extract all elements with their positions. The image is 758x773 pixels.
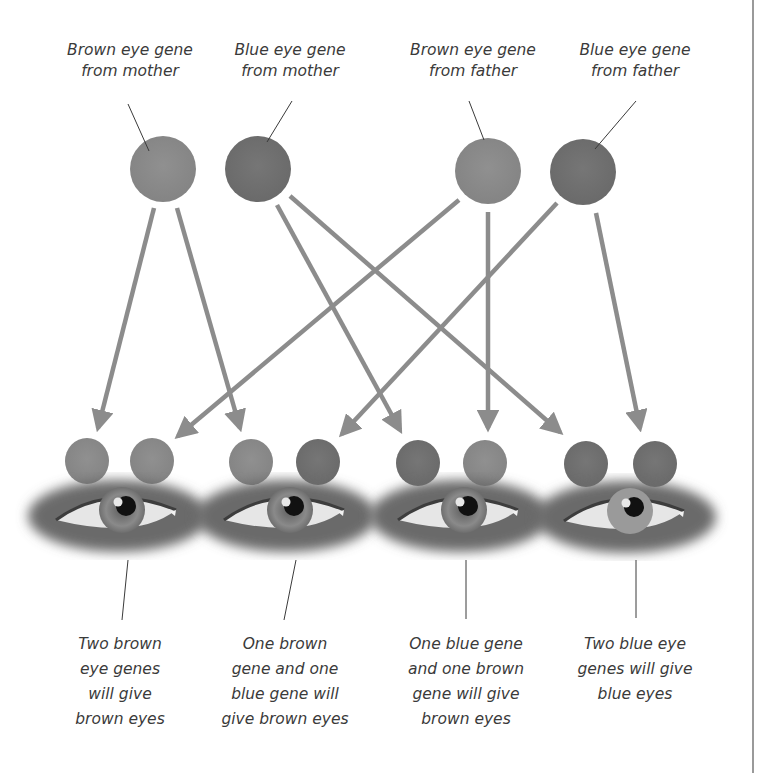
label-brown-gene-father: Brown eye gene from father (393, 40, 553, 82)
gene-circle-brown-mother (130, 136, 196, 202)
offspring-genes (65, 438, 677, 487)
page-border-right (752, 0, 754, 773)
offspring-gene-1b (130, 438, 174, 484)
caption-one-blue-one-brown: One blue gene and one brown gene will gi… (391, 632, 541, 732)
inheritance-arrows (98, 196, 640, 436)
caption-two-blue-genes: Two blue eye genes will give blue eyes (560, 632, 710, 707)
eye-blue-4 (536, 481, 716, 553)
offspring-gene-4b (633, 441, 677, 487)
gene-circle-blue-father (550, 139, 616, 205)
eye-brown-3 (370, 480, 550, 552)
label-brown-gene-mother: Brown eye gene from mother (50, 40, 210, 82)
offspring-gene-4a (564, 441, 608, 487)
gene-circle-brown-father (455, 138, 521, 204)
offspring-gene-3a (396, 440, 440, 486)
arrow-father-blue-to-pair4 (596, 213, 640, 428)
offspring-gene-2a (229, 439, 273, 485)
caption-one-brown-one-blue: One brown gene and one blue gene will gi… (200, 632, 370, 732)
offspring-gene-2b (296, 439, 340, 485)
arrow-mother-brown-to-pair1 (98, 208, 154, 428)
offspring-gene-1a (65, 438, 109, 484)
arrow-father-brown-to-pair1 (178, 200, 459, 436)
arrow-mother-brown-to-pair2 (177, 208, 240, 428)
offspring-gene-3b (463, 440, 507, 486)
parent-genes (130, 136, 616, 205)
caption-two-brown-genes: Two brown eye genes will give brown eyes (50, 632, 190, 732)
eye-brown-2 (196, 480, 376, 552)
label-blue-gene-mother: Blue eye gene from mother (220, 40, 360, 82)
caption-leader-lines (122, 560, 636, 620)
parent-leader-lines (128, 101, 636, 151)
eye-brown-1 (28, 480, 208, 552)
gene-circle-blue-mother (225, 136, 291, 202)
eye-illustrations (28, 480, 716, 553)
label-blue-gene-father: Blue eye gene from father (565, 40, 705, 82)
